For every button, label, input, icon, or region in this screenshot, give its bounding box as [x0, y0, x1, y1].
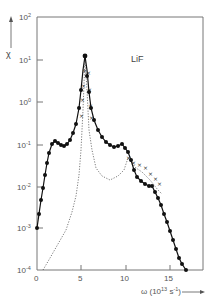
- material-annotation: LiF: [131, 54, 144, 64]
- svg-text:χ: χ: [6, 49, 11, 59]
- x-ticks: [81, 265, 170, 270]
- svg-text:102: 102: [19, 12, 31, 22]
- svg-text:10-1: 10-1: [17, 140, 31, 150]
- svg-text:0: 0: [34, 274, 39, 283]
- y-tick-labels: 102 101 100 10-1 10-2 10-3 10-4: [17, 12, 31, 275]
- svg-text:10-4: 10-4: [17, 265, 31, 275]
- svg-text:10: 10: [120, 274, 129, 283]
- svg-text:ω (1013 s-1): ω (1013 s-1): [141, 286, 181, 296]
- svg-text:15: 15: [164, 274, 173, 283]
- svg-text:×: ×: [137, 161, 142, 168]
- svg-text:10-3: 10-3: [17, 223, 31, 233]
- series-dots: [35, 54, 188, 272]
- x-axis-label: ω (1013 s-1): [141, 286, 205, 296]
- x-tick-labels: 0 5 10 15: [34, 274, 173, 283]
- y-axis-label: χ: [6, 16, 13, 59]
- svg-text:5: 5: [78, 274, 83, 283]
- chart: 102 101 100 10-1 10-2 10-3 10-4 0 5 10 1…: [0, 0, 216, 300]
- svg-text:100: 100: [19, 97, 31, 107]
- svg-text:×: ×: [79, 112, 84, 119]
- svg-text:10-2: 10-2: [17, 182, 31, 192]
- svg-text:101: 101: [19, 55, 31, 65]
- svg-text:×: ×: [157, 180, 162, 187]
- series-crosses: × × × × × × × × × × × × × × ×: [43, 58, 162, 270]
